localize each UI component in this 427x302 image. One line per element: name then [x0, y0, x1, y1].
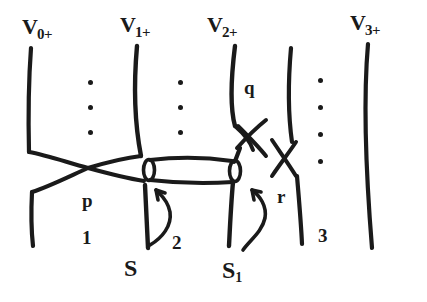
level-label-v0: V0+ — [22, 16, 52, 42]
level-curve-v0-upper — [29, 48, 31, 152]
ellipsis-dot — [318, 78, 323, 83]
saddle-p-upper-branch — [29, 152, 141, 168]
index-label-2: 2 — [172, 233, 182, 252]
level-label-v3-base: V — [350, 10, 366, 35]
critical-point-label-r: r — [277, 187, 285, 206]
sheet-label-s1-sub: 1 — [235, 270, 242, 285]
level-curve-v1-lower — [145, 185, 148, 248]
level-curve-inner-lower — [297, 176, 302, 244]
sheet-label-s1: S1 — [222, 258, 242, 285]
level-label-v1: V1+ — [120, 14, 150, 40]
level-label-v1-sub: 1+ — [135, 24, 150, 40]
ellipsis-dot — [88, 80, 93, 85]
level-label-v1-base: V — [120, 12, 136, 37]
dots-between-v1-v2 — [178, 80, 183, 135]
ellipsis-dot — [178, 130, 183, 135]
tube-bottom-edge — [150, 180, 233, 183]
level-label-v2-base: V — [207, 12, 223, 37]
saddle-p-lower-branch — [32, 168, 144, 192]
ellipsis-dot — [178, 80, 183, 85]
level-label-v3: V3+ — [350, 12, 380, 38]
critical-point-label-p: p — [82, 191, 93, 210]
ellipsis-dot — [88, 105, 93, 110]
dots-between-v0-v1 — [88, 80, 93, 135]
tube-top-edge — [150, 158, 232, 161]
level-curve-v1-upper — [135, 46, 141, 156]
ellipsis-dot — [318, 105, 323, 110]
sheet-label-s: S — [124, 256, 137, 283]
level-curve-inner-upper — [289, 48, 292, 142]
level-curve-v2-upper — [232, 46, 235, 126]
level-label-v2-sub: 2+ — [222, 24, 237, 40]
ellipsis-dot — [88, 130, 93, 135]
index-label-1: 1 — [82, 228, 92, 247]
sheet-label-s-base: S — [124, 255, 137, 281]
level-label-v3-sub: 3+ — [365, 22, 380, 38]
critical-point-label-q: q — [244, 78, 255, 97]
figure-canvas: V0+ V1+ V2+ V3+ p q r 1 2 3 S S1 — [0, 0, 427, 302]
index-label-3: 3 — [318, 226, 328, 245]
level-label-v0-sub: 0+ — [37, 26, 52, 42]
sheet-label-s1-base: S — [222, 257, 235, 283]
diagram-strokes — [0, 0, 427, 302]
level-curve-v2-lower — [229, 182, 233, 246]
level-curve-v0-lower — [31, 192, 33, 246]
ellipsis-dot — [178, 105, 183, 110]
level-curve-v2-mid — [234, 148, 240, 162]
level-curve-v3 — [365, 44, 372, 248]
level-label-v2: V2+ — [207, 14, 237, 40]
tube-left-collar — [144, 160, 155, 181]
annotation-arrow-s — [150, 190, 170, 245]
level-label-v0-base: V — [22, 14, 38, 39]
dots-right-of-v3 — [318, 78, 323, 164]
ellipsis-dot — [318, 159, 323, 164]
ellipsis-dot — [318, 132, 323, 137]
